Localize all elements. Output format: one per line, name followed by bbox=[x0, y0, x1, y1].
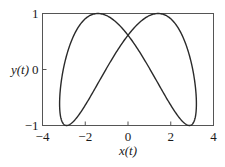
x-tick-label: 0 bbox=[125, 129, 132, 144]
x-tick-label: 4 bbox=[210, 129, 217, 144]
y-axis-label: y(t) bbox=[9, 62, 29, 77]
parametric-curve bbox=[60, 14, 197, 126]
x-tick-label: 2 bbox=[168, 129, 175, 144]
y-tick-label: −1 bbox=[25, 118, 39, 133]
plot-frame bbox=[43, 14, 214, 126]
x-axis-label: x(t) bbox=[118, 143, 137, 158]
y-tick-label: 0 bbox=[32, 62, 39, 77]
parametric-curve-chart: −4−2024 −101 x(t) y(t) bbox=[0, 0, 225, 167]
x-tick-label: −2 bbox=[78, 129, 92, 144]
y-tick-label: 1 bbox=[32, 6, 39, 21]
